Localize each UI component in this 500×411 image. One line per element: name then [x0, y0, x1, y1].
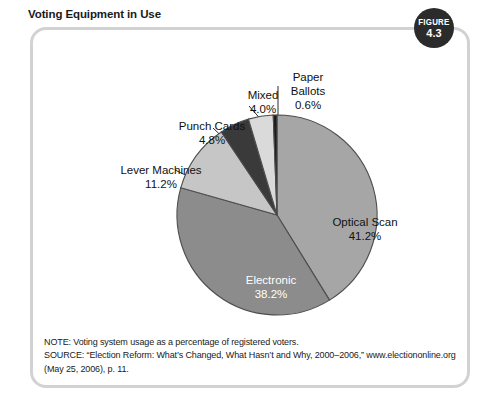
slice-label-lever-machines: Lever Machines 11.2%	[109, 163, 213, 191]
slice-label-punch-cards: Punch Cards 4.8%	[169, 119, 255, 147]
slice-label-optical-scan-value: 41.2%	[318, 229, 412, 243]
slice-label-electronic-value: 38.2%	[230, 287, 312, 301]
slice-label-punch-cards-name: Punch Cards	[169, 119, 255, 133]
slice-label-optical-scan-name: Optical Scan	[318, 215, 412, 229]
footnote-source-line2: (May 25, 2006), p. 11.	[44, 363, 462, 376]
figure-footnotes: NOTE: Voting system usage as a percentag…	[44, 336, 462, 376]
slice-label-mixed: Mixed 4.0%	[233, 88, 293, 116]
footnote-source-line1: SOURCE: “Election Reform: What’s Changed…	[44, 349, 462, 362]
page-title: Voting Equipment in Use	[28, 8, 161, 20]
slice-label-electronic: Electronic 38.2%	[230, 273, 312, 301]
slice-label-lever-machines-value: 11.2%	[109, 177, 213, 191]
slice-label-mixed-name: Mixed	[233, 88, 293, 102]
figure-badge-word: FIGURE	[418, 18, 450, 27]
slice-label-optical-scan: Optical Scan 41.2%	[318, 215, 412, 243]
pie-chart-svg	[30, 27, 470, 388]
slice-label-punch-cards-value: 4.8%	[169, 133, 255, 147]
slice-label-electronic-name: Electronic	[230, 273, 312, 287]
pie-chart: Paper Ballots 0.6% Mixed 4.0% Punch Card…	[30, 27, 470, 388]
figure-page: Voting Equipment in Use FIGURE 4.3	[0, 0, 500, 411]
slice-label-lever-machines-name: Lever Machines	[109, 163, 213, 177]
figure-number-badge: FIGURE 4.3	[414, 8, 454, 48]
footnote-note: NOTE: Voting system usage as a percentag…	[44, 336, 462, 349]
slice-label-mixed-value: 4.0%	[233, 102, 293, 116]
slice-label-paper-ballots-name-line1: Paper	[276, 70, 340, 84]
figure-badge-number: 4.3	[426, 28, 441, 39]
